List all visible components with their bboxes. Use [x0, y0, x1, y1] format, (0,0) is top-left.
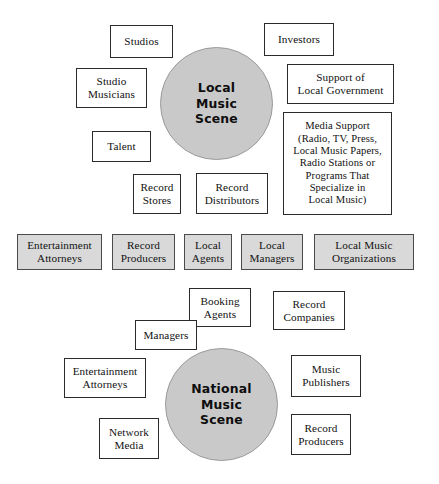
node-record-distributors[interactable]: Record Distributors [196, 173, 268, 214]
node-talent[interactable]: Talent [92, 131, 151, 162]
shared-item-entertainment-attorneys[interactable]: Entertainment Attorneys [17, 234, 102, 270]
node-media-support[interactable]: Media Support (Radio, TV, Press, Local M… [283, 112, 392, 215]
hub-local-music-scene: Local Music Scene [160, 47, 273, 160]
node-managers[interactable]: Managers [135, 320, 197, 350]
node-investors[interactable]: Investors [264, 23, 334, 56]
shared-item-record-producers[interactable]: Record Producers [112, 234, 175, 270]
music-scene-diagram: Studios Investors Studio Musicians Suppo… [0, 0, 439, 484]
node-network-media[interactable]: Network Media [99, 418, 159, 459]
node-studios[interactable]: Studios [110, 25, 173, 58]
shared-item-local-agents[interactable]: Local Agents [184, 234, 232, 270]
node-record-stores[interactable]: Record Stores [133, 174, 181, 214]
node-record-companies[interactable]: Record Companies [273, 291, 345, 330]
node-entertainment-attorneys-national[interactable]: Entertainment Attorneys [64, 358, 146, 398]
node-record-producers-national[interactable]: Record Producers [291, 414, 351, 455]
shared-item-local-managers[interactable]: Local Managers [241, 234, 303, 270]
hub-national-music-scene: National Music Scene [165, 348, 278, 461]
shared-item-local-music-organizations[interactable]: Local Music Organizations [314, 234, 414, 270]
node-studio-musicians[interactable]: Studio Musicians [76, 68, 147, 108]
node-support-of-local-government[interactable]: Support of Local Government [287, 64, 394, 104]
node-music-publishers[interactable]: Music Publishers [291, 355, 361, 397]
node-booking-agents[interactable]: Booking Agents [189, 288, 251, 327]
